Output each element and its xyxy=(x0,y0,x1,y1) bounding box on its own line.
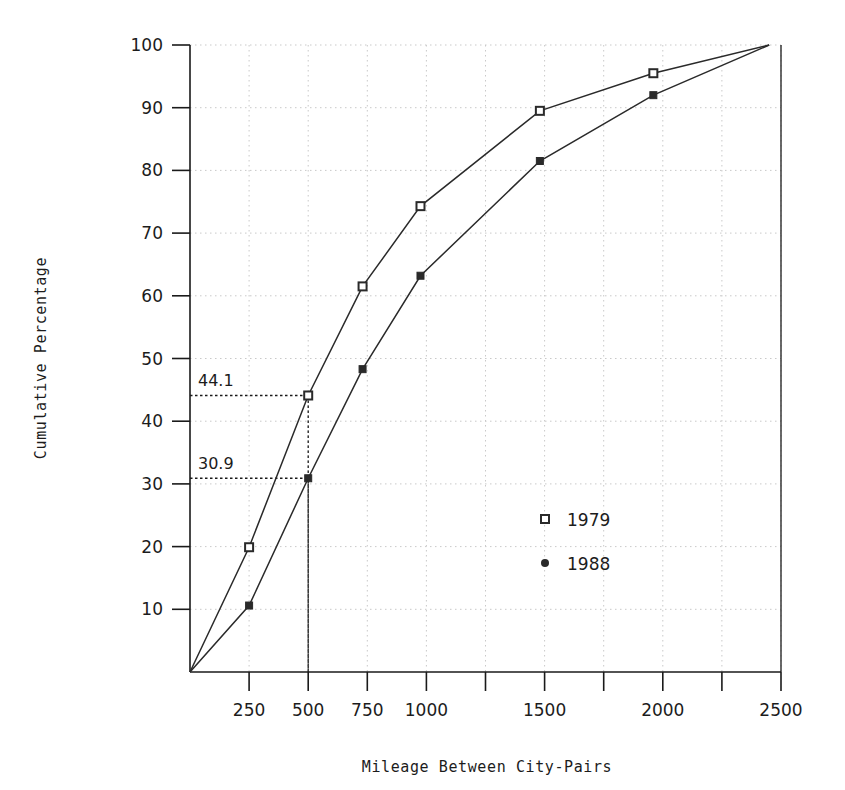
data-point-1988 xyxy=(536,157,543,164)
y-tick-label: 100 xyxy=(131,35,163,55)
y-tick-label: 30 xyxy=(141,474,163,494)
series-line-1979 xyxy=(190,45,769,672)
x-tick-label: 500 xyxy=(292,700,324,720)
y-axis-title: Cumulative Percentage xyxy=(32,257,50,459)
data-point-1988 xyxy=(359,366,366,373)
chart-legend: 19791988 xyxy=(541,510,610,574)
x-tick-label: 2000 xyxy=(641,700,684,720)
y-tick-label: 50 xyxy=(141,349,163,369)
legend-marker-open-square-icon xyxy=(541,515,549,523)
data-point-1979 xyxy=(304,391,312,399)
legend-label-1979: 1979 xyxy=(567,510,610,530)
legend-marker-filled-dot-icon xyxy=(541,559,549,567)
x-tick-label: 1000 xyxy=(405,700,448,720)
data-point-1988 xyxy=(246,602,253,609)
annotation-value-label: 30.9 xyxy=(198,454,234,473)
data-point-1979 xyxy=(245,543,253,551)
gridlines xyxy=(190,45,781,672)
annotation-labels: 44.130.9 xyxy=(198,371,234,473)
data-point-1979 xyxy=(359,282,367,290)
y-tick-label: 20 xyxy=(141,537,163,557)
x-tick-label: 750 xyxy=(351,700,383,720)
data-point-1979 xyxy=(416,202,424,210)
data-point-1988 xyxy=(650,92,657,99)
data-series xyxy=(190,45,769,672)
y-tick-label: 80 xyxy=(141,160,163,180)
y-tick-label: 60 xyxy=(141,286,163,306)
data-point-1979 xyxy=(536,107,544,115)
y-axis-ticks: 102030405060708090100 xyxy=(131,35,190,619)
x-axis-ticks: 2505007501000150020002500 xyxy=(233,672,803,720)
x-axis-title: Mileage Between City-Pairs xyxy=(362,758,612,776)
data-point-1988 xyxy=(305,475,312,482)
series-line-1988 xyxy=(190,45,769,672)
cumulative-percentage-line-chart: 102030405060708090100 250500750100015002… xyxy=(0,0,845,790)
annotation-value-label: 44.1 xyxy=(198,371,234,390)
x-tick-label: 1500 xyxy=(523,700,566,720)
legend-label-1988: 1988 xyxy=(567,554,610,574)
data-point-1988 xyxy=(417,272,424,279)
y-tick-label: 90 xyxy=(141,98,163,118)
chart-container: 102030405060708090100 250500750100015002… xyxy=(0,0,845,790)
x-tick-label: 250 xyxy=(233,700,265,720)
y-tick-label: 10 xyxy=(141,599,163,619)
y-tick-label: 70 xyxy=(141,223,163,243)
y-tick-label: 40 xyxy=(141,411,163,431)
x-tick-label: 2500 xyxy=(759,700,802,720)
data-point-1979 xyxy=(649,69,657,77)
